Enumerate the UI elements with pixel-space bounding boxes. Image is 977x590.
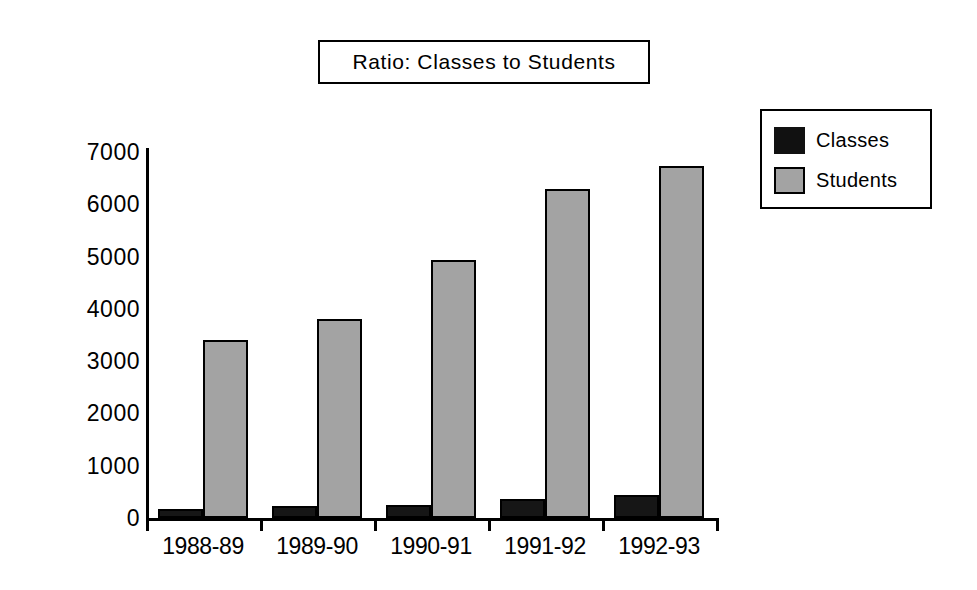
x-axis-tick-mark xyxy=(602,518,605,531)
bar-classes-1992-93 xyxy=(614,495,659,518)
bar-classes-1990-91 xyxy=(386,505,431,518)
bar-students-1989-90 xyxy=(317,319,362,518)
bar-students-1988-89 xyxy=(203,340,248,518)
plot-area: 010002000300040005000600070001988-891989… xyxy=(0,0,977,590)
x-axis-tick-label: 1989-90 xyxy=(276,533,358,560)
x-axis-tick-label: 1991-92 xyxy=(504,533,586,560)
x-axis-tick-mark xyxy=(488,518,491,531)
y-axis-line xyxy=(146,148,149,520)
x-axis-tick-label: 1990-91 xyxy=(390,533,472,560)
bar-chart: Ratio: Classes to Students Classes Stude… xyxy=(0,0,977,590)
x-axis-tick-mark xyxy=(374,518,377,531)
bar-classes-1991-92 xyxy=(500,499,545,518)
x-axis-tick-mark xyxy=(716,518,719,531)
x-axis-tick-mark xyxy=(260,518,263,531)
x-axis-tick-label: 1992-93 xyxy=(618,533,700,560)
y-axis-tick-label: 5000 xyxy=(20,243,140,270)
bar-students-1990-91 xyxy=(431,260,476,518)
x-axis-tick-label: 1988-89 xyxy=(162,533,244,560)
y-axis-tick-label: 4000 xyxy=(20,295,140,322)
x-axis-tick-mark xyxy=(146,518,149,531)
y-axis-tick-label: 2000 xyxy=(20,400,140,427)
y-axis-tick-label: 7000 xyxy=(20,139,140,166)
bar-students-1992-93 xyxy=(659,166,704,518)
bar-students-1991-92 xyxy=(545,189,590,518)
y-axis-tick-label: 1000 xyxy=(20,452,140,479)
y-axis-tick-label: 0 xyxy=(20,505,140,532)
bar-classes-1988-89 xyxy=(158,509,203,518)
y-axis-tick-label: 6000 xyxy=(20,191,140,218)
y-axis-tick-label: 3000 xyxy=(20,348,140,375)
bar-classes-1989-90 xyxy=(272,506,317,518)
x-axis-line xyxy=(146,518,716,521)
